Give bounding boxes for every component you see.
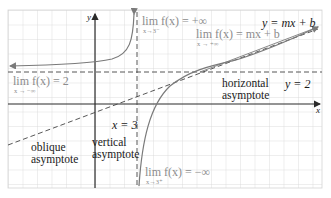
lim-bottom-sub: x→3⁺ bbox=[146, 179, 210, 186]
lim-left-sub: x → −∞ bbox=[14, 88, 69, 95]
lim-right-oblique: lim f(x) = mx + b x → +∞ bbox=[196, 28, 280, 48]
oblique-equation: y = mx + b bbox=[262, 17, 316, 29]
lim-right-sub: x → +∞ bbox=[197, 41, 280, 48]
oblique-asymptote-label: oblique asymptote bbox=[31, 141, 78, 165]
horizontal-asymptote-line2: asymptote bbox=[222, 89, 269, 101]
lim-top-main: lim f(x) = +∞ bbox=[142, 14, 207, 28]
lim-left: lim f(x) = 2 x → −∞ bbox=[13, 75, 69, 95]
lim-bottom-main: lim f(x) = −∞ bbox=[145, 165, 210, 179]
x-axis-label: x bbox=[316, 106, 320, 115]
vertical-asymptote-line1: vertical bbox=[92, 136, 139, 148]
lim-bottom-vertical: lim f(x) = −∞ x→3⁺ bbox=[145, 166, 210, 186]
lim-left-main: lim f(x) = 2 bbox=[13, 74, 69, 88]
vertical-asymptote-line2: asymptote bbox=[92, 148, 139, 160]
vertical-equation: x = 3 bbox=[112, 119, 137, 131]
horizontal-asymptote-line1: horizontal bbox=[222, 77, 269, 89]
horizontal-equation: y = 2 bbox=[285, 78, 310, 90]
vertical-asymptote-label: vertical asymptote bbox=[92, 136, 139, 160]
oblique-asymptote-line1: oblique bbox=[31, 141, 78, 153]
horizontal-asymptote-label: horizontal asymptote bbox=[222, 77, 269, 101]
y-axis-label: y bbox=[87, 13, 91, 22]
oblique-asymptote-line2: asymptote bbox=[31, 153, 78, 165]
